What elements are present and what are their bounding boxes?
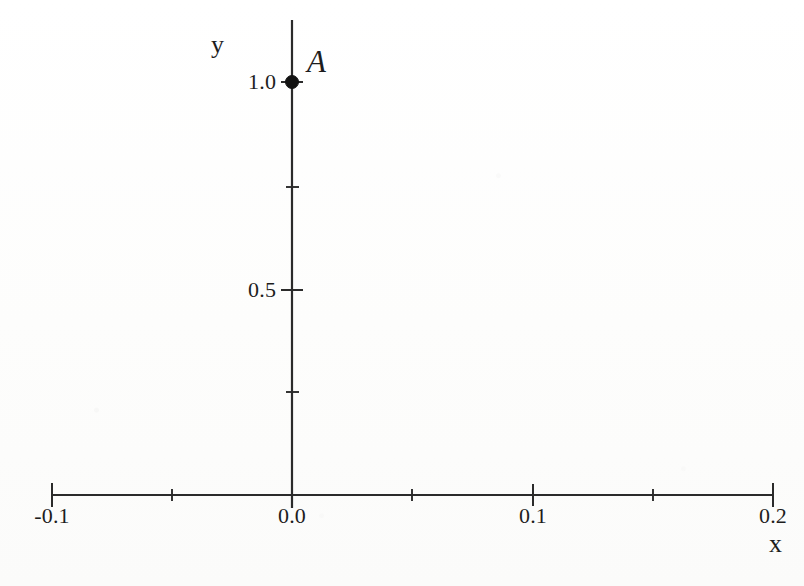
y-axis-label: y [211,32,224,58]
plot-graphic [0,0,804,586]
x-tick-label-0-2: 0.2 [759,505,787,527]
x-tick-label--0-1: -0.1 [34,505,70,527]
y-tick-label-1-0: 1.0 [248,71,276,93]
x-tick-label-0-1: 0.1 [519,505,547,527]
data-point-A [286,76,299,89]
figure-canvas: -0.1 0.0 0.1 0.2 1.0 0.5 y x A [0,0,804,586]
y-tick-label-0-5: 0.5 [248,279,276,301]
x-tick-label-0-0: 0.0 [278,505,306,527]
data-point-label-A: A [307,46,326,77]
x-axis-label: x [769,531,782,557]
